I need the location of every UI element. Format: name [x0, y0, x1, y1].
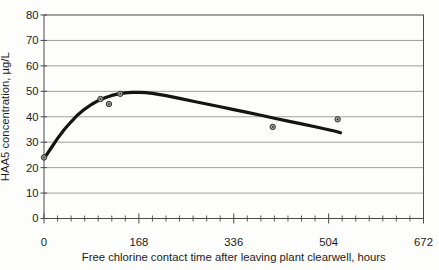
haa-decay-chart-figure: 010203040506070800168336504672 Free chlo…: [0, 0, 439, 270]
data-point-center-dot: [100, 98, 102, 100]
y-tick-label: 50: [26, 85, 39, 97]
data-point: [118, 91, 123, 96]
data-point: [270, 124, 275, 129]
y-tick-label: 60: [26, 60, 39, 72]
data-point: [106, 101, 111, 106]
data-point-center-dot: [119, 93, 121, 95]
x-tick-label: 672: [414, 236, 433, 248]
data-point-center-dot: [43, 157, 45, 159]
chart-canvas: 010203040506070800168336504672 Free chlo…: [0, 0, 439, 270]
x-tick-label: 168: [129, 236, 148, 248]
y-tick-label: 40: [26, 111, 39, 123]
y-tick-label: 80: [26, 9, 39, 21]
x-axis-title: Free chlorine contact time after leaving…: [82, 251, 386, 263]
data-point-center-dot: [108, 103, 110, 105]
data-point: [41, 155, 46, 160]
y-tick-label: 0: [32, 212, 38, 224]
data-point: [98, 96, 103, 101]
data-point: [335, 117, 340, 122]
y-axis-title: HAA5 concentration, µg/L: [0, 52, 11, 181]
y-tick-label: 10: [26, 187, 39, 199]
data-point-center-dot: [272, 126, 274, 128]
x-tick-label: 336: [224, 236, 243, 248]
x-tick-label: 504: [319, 236, 338, 248]
y-tick-label: 20: [26, 162, 39, 174]
data-point-center-dot: [337, 118, 339, 120]
x-tick-label: 0: [41, 236, 47, 248]
y-tick-label: 70: [26, 34, 39, 46]
y-tick-label: 30: [26, 136, 39, 148]
